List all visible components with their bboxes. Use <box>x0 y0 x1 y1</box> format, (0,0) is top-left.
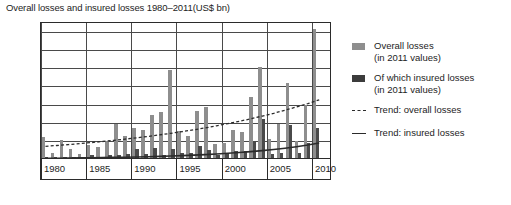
x-axis-tick <box>176 159 177 179</box>
x-tick-label: 2000 <box>225 163 246 174</box>
legend-item-overall-losses: Overall losses(in 2011 values) <box>352 40 510 63</box>
legend-label: Trend: overall losses <box>374 104 510 116</box>
legend-label: Of which insured losses <box>374 72 510 84</box>
legend-sublabel: (in 2011 values) <box>374 84 510 96</box>
chart-legend: Overall losses(in 2011 values)Of which i… <box>352 40 510 149</box>
legend-label: Overall losses <box>374 40 510 52</box>
trend-overall-line <box>46 100 320 146</box>
x-axis-tick <box>312 159 313 179</box>
legend-swatch-icon-overall <box>352 43 365 50</box>
plot-frame: 1980198519901995200020052010 <box>40 22 331 180</box>
trend-lines-layer <box>41 23 330 158</box>
legend-item-trend-insured: Trend: insured losses <box>352 127 510 139</box>
x-tick-label: 1980 <box>44 163 65 174</box>
x-axis-tick <box>267 159 268 179</box>
legend-solid-line-icon <box>352 133 366 134</box>
trend-insured-line <box>46 143 320 158</box>
plot-area <box>41 23 330 158</box>
plot-inner <box>41 23 330 158</box>
legend-swatch-icon-insured <box>352 75 365 82</box>
legend-item-trend-overall: Trend: overall losses <box>352 104 510 116</box>
legend-label: Trend: insured losses <box>374 127 510 139</box>
x-tick-label: 1985 <box>89 163 110 174</box>
x-axis-band: 1980198519901995200020052010 <box>41 158 330 179</box>
x-tick-label: 2010 <box>315 163 336 174</box>
x-axis-tick <box>41 159 42 179</box>
x-tick-label: 2005 <box>270 163 291 174</box>
x-axis-tick <box>86 159 87 179</box>
x-axis-tick <box>131 159 132 179</box>
x-tick-label: 1995 <box>179 163 200 174</box>
x-tick-label: 1990 <box>134 163 155 174</box>
legend-sublabel: (in 2011 values) <box>374 52 510 64</box>
x-axis-tick <box>222 159 223 179</box>
legend-item-insured-losses: Of which insured losses(in 2011 values) <box>352 72 510 95</box>
chart-figure: Overall losses and insured losses 1980–2… <box>0 0 511 205</box>
legend-dashed-line-icon <box>352 110 366 111</box>
chart-title: Overall losses and insured losses 1980–2… <box>6 2 230 13</box>
